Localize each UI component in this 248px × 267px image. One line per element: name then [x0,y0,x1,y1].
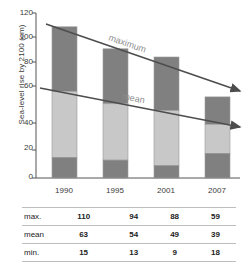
cell-mean-2007: 39 [195,226,236,244]
x-tick-2007: 2007 [197,186,237,195]
cell-mean-1995: 54 [113,226,154,244]
table-row-max: max. 110 94 88 59 [22,208,236,226]
cell-max-1990: 110 [54,208,113,226]
chart-plot: maximum mean [0,0,248,200]
cell-min-2001: 9 [154,244,195,262]
sea-level-rise-figure: Sea-level rise by 2100 (cm) 120 100 80 6… [0,0,248,267]
bar-1990 [52,27,77,178]
row-label-mean: mean [22,226,54,244]
cell-min-1990: 15 [54,244,113,262]
data-table: max. 110 94 88 59 mean 63 54 49 39 min. … [22,207,236,262]
table-row-mean: mean 63 54 49 39 [22,226,236,244]
bar-1995 [103,49,128,178]
cell-max-1995: 94 [113,208,154,226]
chart-area: Sea-level rise by 2100 (cm) 120 100 80 6… [0,0,248,200]
row-label-min: min. [22,244,54,262]
cell-mean-2001: 49 [154,226,195,244]
y-axis-ticks [32,13,36,178]
bar-2007 [205,97,230,178]
cell-min-1995: 13 [113,244,154,262]
bar-2001 [154,57,179,178]
row-label-max: max. [22,208,54,226]
x-tick-1995: 1995 [95,186,135,195]
cell-max-2007: 59 [195,208,236,226]
x-tick-2001: 2001 [146,186,186,195]
table-row-min: min. 15 13 9 18 [22,244,236,262]
cell-max-2001: 88 [154,208,195,226]
cell-min-2007: 18 [195,244,236,262]
x-tick-1990: 1990 [44,186,84,195]
cell-mean-1990: 63 [54,226,113,244]
